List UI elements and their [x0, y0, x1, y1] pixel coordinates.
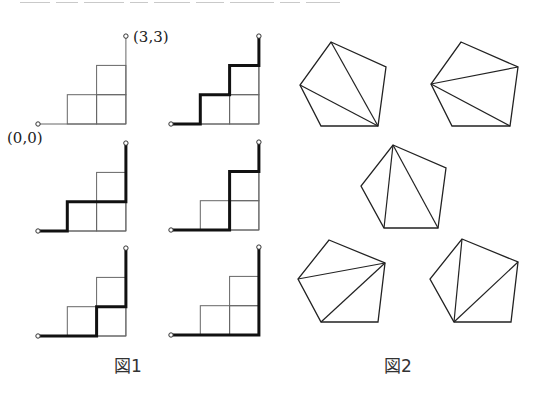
grid-cell — [97, 202, 126, 231]
end-point-marker — [257, 245, 261, 249]
grid-cell — [230, 171, 259, 200]
end-point-marker — [124, 34, 128, 38]
grid-cell — [200, 306, 229, 335]
grid-cell — [97, 172, 126, 201]
grid-cell — [97, 95, 126, 124]
end-point-marker — [124, 141, 128, 145]
lattice-path — [171, 142, 259, 230]
pentagon-diagonal — [321, 263, 385, 322]
start-point-marker — [169, 228, 173, 232]
grid-cell — [67, 307, 96, 336]
grid-cell — [200, 201, 229, 230]
figure1-caption: 図1 — [114, 352, 142, 377]
start-point-marker — [169, 122, 173, 126]
pentagon-diagonal — [431, 84, 510, 126]
pentagon-diagonal — [384, 145, 393, 228]
lattice-path — [38, 248, 126, 336]
grid-cell — [200, 95, 229, 124]
pentagon — [300, 42, 386, 126]
pentagon-diagonal — [454, 262, 518, 322]
grid-cell — [67, 202, 96, 231]
grid-cell — [230, 201, 259, 230]
pentagon — [361, 145, 446, 228]
lattice-path — [171, 247, 259, 335]
pentagon-diagonal — [393, 145, 438, 228]
pentagon — [298, 240, 385, 322]
grid-cell — [97, 307, 126, 336]
lattice-path — [171, 36, 259, 124]
grid-cell — [230, 276, 259, 305]
start-point-marker — [36, 122, 40, 126]
grid-cell — [230, 95, 259, 124]
start-point-marker — [169, 333, 173, 337]
start-point-marker — [36, 334, 40, 338]
pentagon-diagonal — [454, 239, 462, 322]
end-point-marker — [257, 34, 261, 38]
end-point-marker — [124, 246, 128, 250]
grid-cell — [97, 65, 126, 94]
grid-cell — [230, 65, 259, 94]
pentagon-diagonal — [298, 263, 385, 279]
end-point-label: (3,3) — [133, 28, 169, 46]
figure2-caption: 図2 — [384, 352, 412, 377]
lattice-path — [38, 143, 126, 231]
pentagon — [430, 239, 518, 322]
pentagon — [431, 42, 518, 126]
grid-cell — [230, 306, 259, 335]
pentagon-diagonal — [431, 67, 518, 84]
diagram-canvas — [0, 0, 541, 401]
start-point-marker — [36, 229, 40, 233]
grid-cell — [67, 95, 96, 124]
end-point-marker — [257, 140, 261, 144]
grid-cell — [97, 277, 126, 306]
start-point-label: (0,0) — [7, 129, 43, 147]
